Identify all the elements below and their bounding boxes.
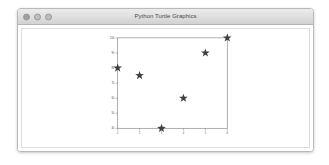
window-titlebar[interactable]: Python Turtle Graphics bbox=[18, 9, 313, 25]
y-axis-tick-label: 40 bbox=[111, 126, 114, 130]
window-controls bbox=[23, 13, 52, 20]
scatter-point-star-icon bbox=[179, 94, 188, 102]
minimize-button-icon[interactable] bbox=[34, 13, 41, 20]
x-axis-tick-label: 4 bbox=[183, 131, 185, 135]
scatter-point-star-icon bbox=[135, 71, 144, 79]
scatter-point-star-icon bbox=[157, 124, 166, 132]
close-button-icon[interactable] bbox=[23, 13, 30, 20]
x-axis-tick-label: 1 bbox=[117, 131, 119, 135]
y-axis-tick-label: 60 bbox=[111, 96, 114, 100]
x-axis-tick-label: 5 bbox=[205, 131, 207, 135]
y-axis-tick-label: 70 bbox=[111, 81, 114, 85]
y-axis-tick-label: 90 bbox=[111, 51, 114, 55]
x-axis-tick-label: 6 bbox=[227, 131, 229, 135]
y-axis-tick-label: 100 bbox=[110, 36, 115, 40]
scatter-point-star-icon bbox=[201, 48, 210, 56]
scatter-plot-svg: 405060708090100123456 bbox=[22, 29, 309, 147]
scatter-plot: 405060708090100123456 bbox=[22, 29, 309, 147]
screen: Python Turtle Graphics 40506070809010012… bbox=[0, 0, 329, 165]
plot-frame bbox=[118, 38, 228, 128]
x-axis-tick-label: 3 bbox=[161, 131, 163, 135]
turtle-canvas[interactable]: 405060708090100123456 bbox=[21, 28, 310, 148]
turtle-graphics-window[interactable]: Python Turtle Graphics 40506070809010012… bbox=[17, 8, 314, 152]
window-body: 405060708090100123456 bbox=[18, 25, 313, 151]
zoom-button-icon[interactable] bbox=[45, 13, 52, 20]
y-axis-tick-label: 50 bbox=[111, 111, 114, 115]
window-title: Python Turtle Graphics bbox=[18, 9, 313, 24]
x-axis-tick-label: 2 bbox=[139, 131, 141, 135]
